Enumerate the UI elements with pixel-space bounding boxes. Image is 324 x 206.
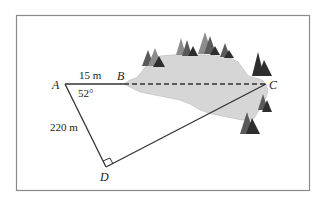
lake-triangle-diagram: A B C D 15 m 52° 220 m xyxy=(0,0,324,206)
point-label-D: D xyxy=(99,170,109,184)
label-AB-length: 15 m xyxy=(79,69,102,81)
point-label-A: A xyxy=(51,78,60,92)
label-angle-A: 52° xyxy=(78,87,93,99)
label-AD-length: 220 m xyxy=(50,121,78,133)
point-label-C: C xyxy=(269,78,278,92)
point-label-B: B xyxy=(117,69,125,83)
